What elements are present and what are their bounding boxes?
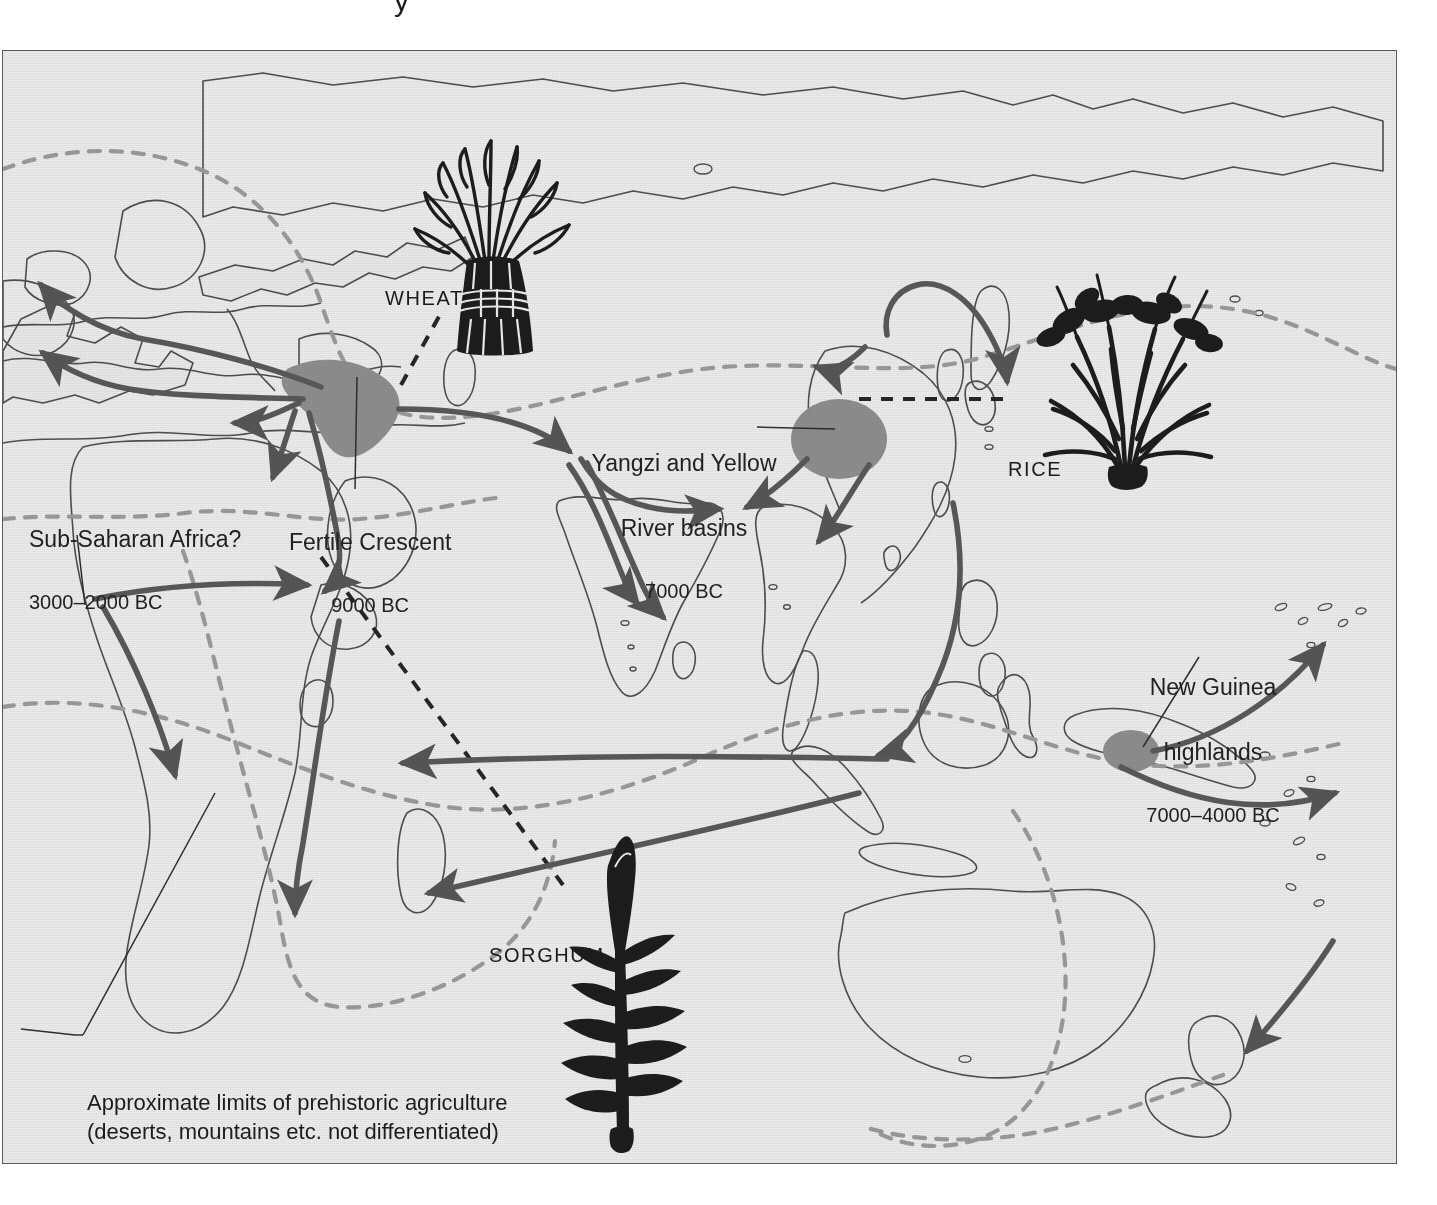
region-name-sub-saharan: Sub-Saharan Africa? <box>29 526 241 553</box>
sorghum-illustration <box>561 836 687 1153</box>
crop-label-sorghum: SORGHUM <box>489 944 605 967</box>
crop-label-wheat: WHEAT <box>385 287 464 310</box>
region-name-yangzi-line1: Yangzi and Yellow <box>589 450 779 477</box>
crop-label-rice: RICE <box>1008 458 1062 481</box>
legend-line-2: (deserts, mountains etc. not differentia… <box>87 1118 508 1147</box>
fertile-crescent-blob <box>282 360 400 458</box>
legend-leader-upper <box>83 793 215 1035</box>
legend-line-1: Approximate limits of prehistoric agricu… <box>87 1089 508 1118</box>
region-name-new-guinea-line2: highlands <box>1133 739 1293 766</box>
region-name-new-guinea-line1: New Guinea <box>1133 674 1293 701</box>
map-figure: Fertile Crescent 9000 BC Yangzi and Yell… <box>2 50 1397 1164</box>
legend-text: Approximate limits of prehistoric agricu… <box>87 1089 508 1146</box>
arrow-to-new-zealand <box>1247 941 1333 1051</box>
arrow-island-to-africa <box>403 757 887 764</box>
yangzi-yellow-blob <box>791 399 887 479</box>
region-date-yangzi: 7000 BC <box>589 580 779 604</box>
wheat-illustration <box>415 141 569 356</box>
wheat-leader <box>401 313 441 385</box>
cropped-title-fragment: y <box>394 0 409 16</box>
legend-leader-bracket <box>21 1029 83 1035</box>
region-name-yangzi-line2: River basins <box>589 515 779 542</box>
region-label-yangzi-yellow: Yangzi and Yellow River basins 7000 BC <box>589 412 779 641</box>
region-name-fertile-crescent: Fertile Crescent <box>289 529 451 556</box>
region-label-sub-saharan-africa: Sub-Saharan Africa? 3000–2000 BC <box>29 488 241 652</box>
arrow-to-egypt <box>273 411 295 477</box>
region-label-new-guinea-highlands: New Guinea highlands 7000–4000 BC <box>1133 636 1293 865</box>
region-date-new-guinea: 7000–4000 BC <box>1133 804 1293 828</box>
region-date-fertile-crescent: 9000 BC <box>289 594 451 618</box>
region-date-sub-saharan: 3000–2000 BC <box>29 591 241 615</box>
region-label-fertile-crescent: Fertile Crescent 9000 BC <box>289 491 451 655</box>
rice-illustration <box>1034 275 1224 490</box>
